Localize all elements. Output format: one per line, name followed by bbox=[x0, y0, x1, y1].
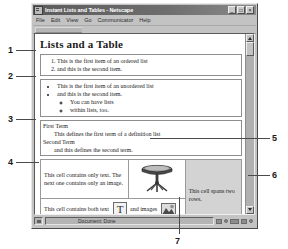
status-bar: Document: Done bbox=[34, 216, 255, 226]
svg-text:T: T bbox=[116, 203, 123, 214]
callout-3: 3 bbox=[8, 114, 13, 124]
status-tray bbox=[214, 219, 255, 224]
menu-item-communicator[interactable]: Communicator bbox=[98, 16, 134, 25]
tray-extra-icon[interactable] bbox=[249, 219, 253, 223]
scrollbar-track[interactable] bbox=[246, 42, 254, 206]
list-item: This is the first item of an ordered lis… bbox=[57, 57, 241, 65]
callout-5: 5 bbox=[272, 133, 277, 143]
newsgroup-icon[interactable] bbox=[224, 219, 228, 223]
menu-item-file[interactable]: File bbox=[36, 16, 45, 25]
callout-4-leader bbox=[16, 162, 39, 163]
callout-2-leader bbox=[16, 76, 36, 77]
minimize-button[interactable]: _ bbox=[228, 6, 236, 14]
window-controls: _ □ × bbox=[228, 6, 255, 14]
vertical-scrollbar[interactable] bbox=[245, 34, 254, 214]
page-title: Lists and a Table bbox=[40, 38, 242, 50]
title-bar[interactable]: Instant Lists and Tables - Netscape _ □ … bbox=[33, 5, 256, 15]
definition-description: This defines the first term of a definit… bbox=[54, 130, 241, 138]
cell-text-middle: and images bbox=[130, 206, 157, 212]
callout-5-leader bbox=[150, 138, 270, 139]
netscape-document-icon bbox=[34, 6, 43, 15]
list-item: You can have lists bbox=[70, 98, 241, 106]
callout-6-leader bbox=[248, 175, 270, 176]
figure-container: Instant Lists and Tables - Netscape _ □ … bbox=[0, 0, 288, 249]
menu-item-help[interactable]: Help bbox=[139, 16, 150, 25]
pedestal-table-illustration bbox=[138, 163, 176, 193]
mail-icon[interactable] bbox=[216, 219, 222, 224]
minimize-icon: _ bbox=[229, 7, 235, 13]
callout-4: 4 bbox=[8, 157, 13, 167]
menu-item-view[interactable]: View bbox=[66, 16, 78, 25]
composer-icon[interactable] bbox=[230, 219, 239, 224]
scrollbar-thumb[interactable] bbox=[246, 42, 254, 56]
definition-description: and this defines the second term. bbox=[54, 146, 241, 154]
photo-thumbnail-image bbox=[161, 203, 176, 215]
list-item: within lists, too. bbox=[70, 106, 241, 114]
conference-icon[interactable] bbox=[241, 219, 247, 224]
page-canvas: Lists and a Table This is the first item… bbox=[35, 34, 245, 214]
callout-1-leader bbox=[16, 50, 36, 51]
cell-text-before: This cell contains both text bbox=[44, 206, 109, 212]
letter-t-image: T bbox=[113, 202, 127, 214]
ordered-list: This is the first item of an ordered lis… bbox=[41, 57, 241, 73]
browser-window: Instant Lists and Tables - Netscape _ □ … bbox=[31, 3, 258, 229]
table-rowspan-cell: This cell spans two rows. bbox=[185, 160, 241, 215]
list-item: and this is the second item. bbox=[57, 65, 241, 73]
definition-term: Second Term bbox=[43, 138, 241, 146]
menu-item-edit[interactable]: Edit bbox=[51, 16, 60, 25]
callout-2: 2 bbox=[8, 71, 13, 81]
maximize-icon: □ bbox=[238, 7, 244, 13]
list-item: and this is the second item. You can hav… bbox=[57, 90, 241, 114]
callout-1: 1 bbox=[8, 45, 13, 55]
table-row: This cell contains only text. The next o… bbox=[41, 160, 242, 199]
status-message: Document: Done bbox=[45, 217, 214, 225]
menu-bar: File Edit View Go Communicator Help bbox=[33, 16, 256, 26]
ordered-list-region: This is the first item of an ordered lis… bbox=[40, 54, 242, 76]
table-colspan-cell: This cell contains both text T and image… bbox=[41, 199, 186, 215]
window-title: Instant Lists and Tables - Netscape bbox=[45, 6, 228, 15]
unordered-list-region: This is the first item of an unordered l… bbox=[40, 79, 242, 117]
security-lock-icon[interactable] bbox=[34, 217, 43, 225]
definition-term: First Term bbox=[43, 122, 241, 130]
callout-7-leader bbox=[179, 197, 180, 234]
callout-3-leader bbox=[16, 119, 36, 120]
nested-unordered-list: You can have lists within lists, too. bbox=[57, 98, 241, 114]
callout-7: 7 bbox=[175, 236, 180, 246]
list-item-label: and this is the second item. bbox=[57, 91, 122, 97]
table-image-cell bbox=[129, 160, 185, 199]
unordered-list: This is the first item of an unordered l… bbox=[41, 82, 241, 114]
callout-6: 6 bbox=[272, 170, 277, 180]
demo-table: This cell contains only text. The next o… bbox=[40, 159, 242, 214]
close-icon: × bbox=[247, 7, 253, 13]
scroll-down-icon[interactable] bbox=[246, 206, 254, 214]
table-text-cell: This cell contains only text. The next o… bbox=[41, 160, 129, 199]
maximize-button[interactable]: □ bbox=[237, 6, 245, 14]
close-button[interactable]: × bbox=[246, 6, 254, 14]
scroll-up-icon[interactable] bbox=[246, 34, 254, 42]
menu-item-go[interactable]: Go bbox=[84, 16, 91, 25]
content-viewport: Lists and a Table This is the first item… bbox=[34, 33, 255, 215]
list-item: This is the first item of an unordered l… bbox=[57, 82, 241, 90]
